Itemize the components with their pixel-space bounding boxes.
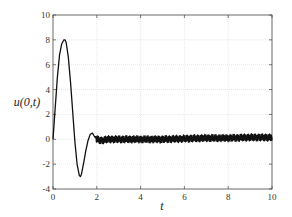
- x-tick-label: 0: [51, 192, 56, 202]
- y-tick-label: 6: [46, 60, 51, 70]
- y-axis-label: u(0,t): [14, 95, 40, 109]
- y-tick-label: -2: [43, 159, 51, 169]
- line-chart: 0246810-4-20246810 t u(0,t): [0, 0, 292, 217]
- x-tick-label: 2: [95, 192, 100, 202]
- y-tick-label: 10: [41, 10, 51, 20]
- y-tick-label: 2: [46, 109, 51, 119]
- x-tick-label: 10: [268, 192, 278, 202]
- x-tick-label: 6: [182, 192, 187, 202]
- y-tick-label: 4: [46, 85, 51, 95]
- y-tick-label: -4: [43, 184, 51, 194]
- x-tick-label: 8: [226, 192, 231, 202]
- y-tick-label: 0: [46, 134, 51, 144]
- y-tick-label: 8: [46, 35, 51, 45]
- x-tick-label: 4: [138, 192, 143, 202]
